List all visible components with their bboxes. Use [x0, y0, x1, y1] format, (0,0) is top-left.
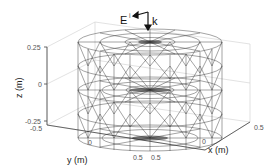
incident-wave	[133, 12, 151, 30]
z-axis-line	[44, 47, 47, 125]
x-axis-label: x (m)	[208, 145, 229, 155]
e-arrow	[137, 12, 148, 15]
z-tick-025: 0.25	[27, 44, 41, 51]
k-vector-label: k	[152, 15, 158, 27]
y-tick-05: 0.5	[133, 154, 143, 161]
wireframe-plot: E i k 0.25 0 -0.25 -0.5 0 0.5 0.5 0 0.5 …	[0, 0, 277, 168]
y-axis-label: y (m)	[67, 155, 88, 165]
z-tick-neg025: -0.25	[25, 118, 41, 125]
x-tick-0: 0	[202, 138, 206, 145]
z-axis-label: z (m)	[14, 78, 24, 99]
z-tick-0: 0	[38, 81, 42, 88]
e-field-superscript: i	[129, 12, 131, 19]
y-tick-neg05: -0.5	[30, 125, 42, 132]
x-tick-05-far: 0.5	[254, 124, 264, 131]
y-tick-0: 0	[88, 139, 92, 146]
x-tick-05: 0.5	[151, 154, 161, 161]
e-field-label: E	[120, 14, 127, 26]
